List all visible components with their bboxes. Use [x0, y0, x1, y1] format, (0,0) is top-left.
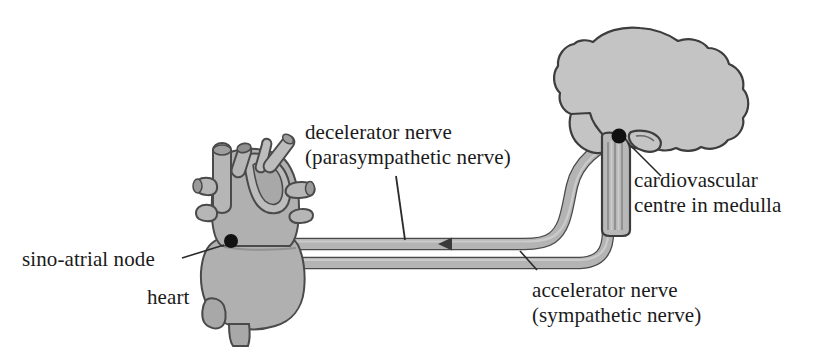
label-decelerator-line1: decelerator nerve: [305, 120, 452, 144]
label-accelerator-line1: accelerator nerve: [532, 278, 678, 302]
sino-atrial-node-marker: [224, 234, 238, 248]
label-cardiovascular-centre: cardiovascular centre in medulla: [634, 168, 781, 218]
cardiovascular-centre-marker: [612, 129, 627, 144]
label-decelerator-line2: (parasympathetic nerve): [305, 145, 511, 170]
leader-line-decelerator: [396, 176, 405, 240]
label-decelerator-nerve: decelerator nerve (parasympathetic nerve…: [305, 120, 511, 170]
label-sino-atrial-line1: sino-atrial node: [22, 247, 155, 271]
label-heart: heart: [147, 285, 189, 310]
label-accelerator-nerve: accelerator nerve (sympathetic nerve): [532, 278, 701, 328]
heart-rate-control-diagram: decelerator nerve (parasympathetic nerve…: [0, 0, 829, 347]
label-heart-line1: heart: [147, 285, 189, 309]
label-cardiovascular-line1: cardiovascular: [634, 168, 758, 192]
label-sino-atrial-node: sino-atrial node: [22, 247, 155, 272]
label-accelerator-line2: (sympathetic nerve): [532, 303, 701, 328]
label-cardiovascular-line2: centre in medulla: [634, 193, 781, 218]
